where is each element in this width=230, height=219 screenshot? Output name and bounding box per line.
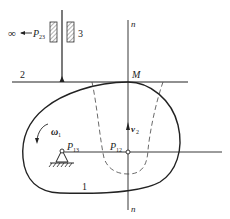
instant-center-p12 xyxy=(126,150,130,154)
p23-subscript: 23 xyxy=(39,34,45,40)
infinity-label: ∞ xyxy=(8,27,16,39)
p23-arrow-icon xyxy=(20,31,32,35)
velocity-v2-arrow-icon xyxy=(126,122,130,130)
rod-fillet xyxy=(60,76,65,82)
p12-subscript: 12 xyxy=(116,147,122,153)
p13-subscript: 13 xyxy=(73,147,79,153)
cam-mechanism-diagram: ∞ P 23 3 2 M n n ω 1 P 13 P 12 v 2 1 xyxy=(0,0,230,219)
omega-subscript: 1 xyxy=(58,132,61,138)
omega-rotation-arrow-icon xyxy=(35,124,48,144)
normal-top-label: n xyxy=(131,19,136,29)
point-m-label: M xyxy=(131,69,141,80)
v2-subscript: 2 xyxy=(136,129,139,135)
link-3-label: 3 xyxy=(78,28,83,39)
link-1-label: 1 xyxy=(82,181,87,192)
link-2-label: 2 xyxy=(20,69,25,80)
normal-bottom-label: n xyxy=(131,204,136,214)
cam-profile xyxy=(23,82,180,193)
